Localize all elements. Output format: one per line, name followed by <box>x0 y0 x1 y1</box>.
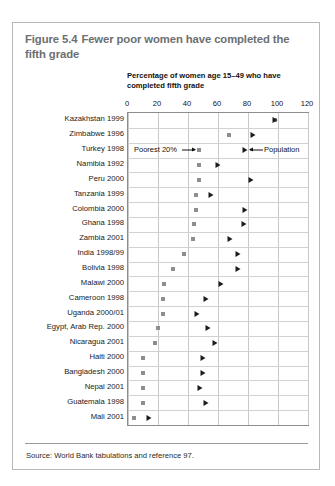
horizontal-gridline <box>128 143 308 144</box>
data-marker-population <box>243 207 248 213</box>
horizontal-gridline <box>128 351 308 352</box>
category-label: Nicaragua 2001 <box>14 336 124 348</box>
vertical-gridline <box>128 113 129 425</box>
horizontal-gridline <box>128 306 308 307</box>
data-marker-poorest-20 <box>132 416 136 420</box>
category-axis-labels: Kazakhstan 1999Zimbabwe 1996Turkey 1998N… <box>13 112 124 424</box>
horizontal-gridline <box>128 276 308 277</box>
category-label: Malawi 2000 <box>14 277 124 289</box>
horizontal-gridline <box>128 410 308 411</box>
figure-panel: Figure 5.4Fewer poor women have complete… <box>12 22 320 470</box>
chart-subtitle: Percentage of women age 15–49 who have c… <box>127 71 317 90</box>
category-label: Namibia 1992 <box>14 158 124 170</box>
data-marker-poorest-20 <box>156 326 160 330</box>
data-marker-population <box>243 147 248 153</box>
figure-title: Figure 5.4Fewer poor women have complete… <box>25 32 310 61</box>
category-label: Tanzania 1999 <box>14 188 124 200</box>
vertical-gridline <box>188 113 189 425</box>
data-marker-poorest-20 <box>191 237 195 241</box>
category-label: Bangladesh 2000 <box>14 366 124 378</box>
x-tick-label: 20 <box>153 99 161 108</box>
horizontal-gridline <box>128 232 308 233</box>
category-label: Zimbabwe 1996 <box>14 128 124 140</box>
horizontal-gridline <box>128 366 308 367</box>
vertical-gridline <box>308 113 309 425</box>
source-divider <box>25 443 308 444</box>
data-marker-poorest-20 <box>194 193 198 197</box>
x-tick-label: 80 <box>243 99 251 108</box>
x-tick-label: 100 <box>271 99 284 108</box>
vertical-gridline <box>158 113 159 425</box>
x-tick-label: 120 <box>301 99 314 108</box>
data-marker-population <box>228 236 233 242</box>
data-marker-population <box>201 370 206 376</box>
data-marker-population <box>273 117 278 123</box>
data-marker-poorest-20 <box>182 252 186 256</box>
horizontal-gridline <box>128 217 308 218</box>
data-marker-population <box>208 192 213 198</box>
data-marker-population <box>216 162 221 168</box>
horizontal-gridline <box>128 395 308 396</box>
data-marker-poorest-20 <box>161 297 165 301</box>
horizontal-gridline <box>128 380 308 381</box>
horizontal-gridline <box>128 321 308 322</box>
data-marker-population <box>235 266 240 272</box>
data-marker-population <box>201 355 206 361</box>
x-axis-tick-labels: 020406080100120 <box>127 99 321 112</box>
horizontal-gridline <box>128 187 308 188</box>
data-marker-poorest-20 <box>141 401 145 405</box>
horizontal-gridline <box>128 336 308 337</box>
data-marker-poorest-20 <box>141 356 145 360</box>
horizontal-gridline <box>128 202 308 203</box>
annotation-poorest-20: Poorest 20% <box>134 145 177 155</box>
x-tick-label: 0 <box>125 99 129 108</box>
category-label: Turkey 1998 <box>14 143 124 155</box>
plot-area: Poorest 20%Population <box>127 112 309 426</box>
data-marker-population <box>241 221 246 227</box>
horizontal-gridline <box>128 158 308 159</box>
annotation-arrow-left-icon <box>250 150 263 151</box>
data-marker-poorest-20 <box>197 148 201 152</box>
category-label: Mali 2001 <box>14 411 124 423</box>
vertical-gridline <box>278 113 279 425</box>
category-label: Kazakhstan 1999 <box>14 113 124 125</box>
data-marker-population <box>204 400 209 406</box>
data-marker-population <box>198 385 203 391</box>
x-tick-label: 40 <box>183 99 191 108</box>
horizontal-gridline <box>128 247 308 248</box>
category-label: Egypt, Arab Rep. 2000 <box>14 321 124 333</box>
data-marker-population <box>204 296 209 302</box>
data-marker-population <box>249 177 254 183</box>
category-label: Nepal 2001 <box>14 381 124 393</box>
data-marker-poorest-20 <box>141 371 145 375</box>
chart-plot-wrapper: 020406080100120 Kazakhstan 1999Zimbabwe … <box>13 99 321 437</box>
data-marker-population <box>235 251 240 257</box>
category-label: Bolivia 1998 <box>14 262 124 274</box>
data-marker-poorest-20 <box>161 312 165 316</box>
data-marker-poorest-20 <box>171 267 175 271</box>
category-label: Cameroon 1998 <box>14 292 124 304</box>
data-marker-poorest-20 <box>197 178 201 182</box>
category-label: Colombia 2000 <box>14 203 124 215</box>
data-marker-population <box>213 340 218 346</box>
data-marker-population <box>250 132 255 138</box>
data-marker-population <box>219 281 224 287</box>
figure-number: Figure 5.4 <box>25 33 77 45</box>
data-marker-population <box>205 325 210 331</box>
vertical-gridline <box>218 113 219 425</box>
data-marker-poorest-20 <box>194 208 198 212</box>
category-label: Ghana 1998 <box>14 217 124 229</box>
data-marker-poorest-20 <box>153 341 157 345</box>
category-label: Peru 2000 <box>14 173 124 185</box>
horizontal-gridline <box>128 128 308 129</box>
data-marker-population <box>195 311 200 317</box>
horizontal-gridline <box>128 262 308 263</box>
category-label: Guatemala 1998 <box>14 396 124 408</box>
x-tick-label: 60 <box>213 99 221 108</box>
data-marker-poorest-20 <box>197 163 201 167</box>
category-label: Uganda 2000/01 <box>14 307 124 319</box>
category-label: India 1998/99 <box>14 247 124 259</box>
data-marker-population <box>147 415 152 421</box>
horizontal-gridline <box>128 172 308 173</box>
vertical-gridline <box>248 113 249 425</box>
